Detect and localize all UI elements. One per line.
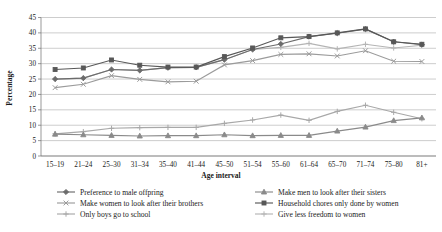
y-axis-ticks: 051015202530354045 bbox=[29, 14, 41, 161]
legend-label: Household chores only done by women bbox=[278, 199, 399, 208]
x-axis-ticks: 15–1921–2425–3031–3435–4041–4445–5051–54… bbox=[46, 161, 427, 169]
y-tick-label: 25 bbox=[29, 76, 37, 84]
legend-item[interactable]: Only boys go to school bbox=[57, 210, 150, 219]
x-tick-label: 25–30 bbox=[103, 161, 121, 169]
data-point-marker bbox=[335, 31, 339, 35]
data-point-marker bbox=[110, 58, 114, 62]
x-tick-label: 41–44 bbox=[187, 161, 205, 169]
y-tick-label: 20 bbox=[29, 91, 37, 99]
y-axis-title: Percentage bbox=[5, 70, 14, 106]
x-tick-label: 65–70 bbox=[328, 161, 346, 169]
x-tick-label: 35–40 bbox=[159, 161, 177, 169]
y-tick-label: 0 bbox=[32, 153, 36, 161]
data-point-marker bbox=[420, 42, 424, 46]
x-tick-label: 45–50 bbox=[215, 161, 233, 169]
x-tick-label: 51–54 bbox=[244, 161, 262, 169]
data-point-marker bbox=[109, 67, 114, 72]
chart-legend: Preference to male offpringMake men to l… bbox=[57, 188, 399, 219]
legend-item[interactable]: Make women to look after their brothers bbox=[57, 199, 203, 208]
legend-item[interactable]: Give less freedom to women bbox=[255, 210, 366, 219]
data-point-marker bbox=[138, 63, 142, 67]
data-point-marker bbox=[53, 76, 58, 81]
series-line bbox=[55, 105, 422, 134]
data-point-marker bbox=[63, 189, 68, 194]
data-point-marker bbox=[53, 68, 57, 72]
x-tick-label: 55–60 bbox=[272, 161, 290, 169]
chart-figure: 051015202530354045 15–1921–2425–3031–343… bbox=[0, 0, 442, 232]
y-tick-label: 40 bbox=[29, 29, 37, 37]
series-line bbox=[55, 29, 422, 79]
x-tick-label: 75–80 bbox=[385, 161, 403, 169]
x-tick-label: 81+ bbox=[416, 161, 427, 169]
data-point-marker bbox=[279, 36, 283, 40]
y-tick-label: 15 bbox=[29, 106, 37, 114]
y-tick-label: 35 bbox=[29, 45, 37, 53]
data-point-marker bbox=[392, 40, 396, 44]
legend-label: Make women to look after their brothers bbox=[80, 199, 203, 208]
legend-item[interactable]: Make men to look after their sisters bbox=[255, 188, 386, 197]
data-point-marker bbox=[222, 55, 226, 59]
legend-label: Make men to look after their sisters bbox=[278, 188, 386, 197]
x-axis-title: Age interval bbox=[201, 171, 240, 180]
data-point-marker bbox=[251, 46, 255, 50]
x-tick-label: 21–24 bbox=[74, 161, 92, 169]
legend-item[interactable]: Preference to male offpring bbox=[57, 188, 164, 197]
legend-label: Preference to male offpring bbox=[80, 188, 164, 197]
x-tick-label: 31–34 bbox=[131, 161, 149, 169]
y-tick-label: 5 bbox=[32, 137, 36, 145]
y-tick-label: 10 bbox=[29, 122, 37, 130]
x-tick-label: 61–64 bbox=[300, 161, 318, 169]
legend-label: Only boys go to school bbox=[80, 210, 150, 219]
x-tick-label: 71–74 bbox=[356, 161, 374, 169]
data-point-marker bbox=[307, 35, 311, 39]
data-point-marker bbox=[419, 115, 424, 120]
data-point-marker bbox=[278, 41, 283, 46]
x-tick-label: 15–19 bbox=[46, 161, 64, 169]
data-point-marker bbox=[262, 201, 266, 205]
data-point-marker bbox=[194, 65, 198, 69]
line-chart: 051015202530354045 15–1921–2425–3031–343… bbox=[0, 0, 442, 232]
y-tick-label: 45 bbox=[29, 14, 37, 22]
legend-item[interactable]: Household chores only done by women bbox=[255, 199, 399, 208]
data-point-marker bbox=[363, 27, 367, 31]
series-lines bbox=[52, 27, 424, 138]
data-point-marker bbox=[137, 68, 142, 73]
y-tick-label: 30 bbox=[29, 60, 37, 68]
data-point-marker bbox=[81, 76, 86, 81]
legend-label: Give less freedom to women bbox=[278, 210, 366, 219]
data-point-marker bbox=[166, 65, 170, 69]
data-point-marker bbox=[81, 66, 85, 70]
